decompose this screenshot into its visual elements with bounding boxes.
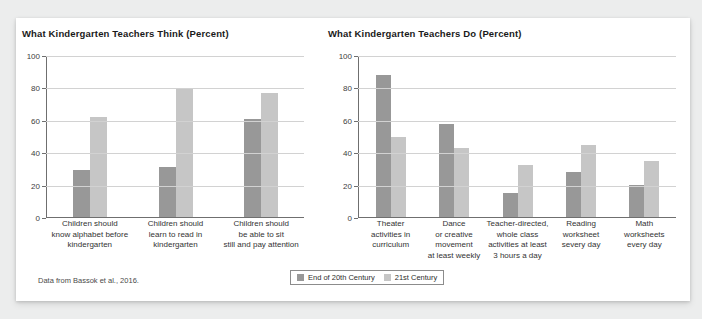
bar-group <box>359 56 422 217</box>
bar <box>518 165 533 217</box>
category-label-line: Children should <box>219 219 303 230</box>
bar <box>159 167 176 217</box>
gridline <box>358 56 676 57</box>
category-label-line: worksheets <box>614 230 675 241</box>
y-tick-label: 80 <box>343 84 352 93</box>
category-labels-do: Theateractivities incurriculumDanceor cr… <box>359 219 676 261</box>
category-label-line: Children should <box>48 219 132 230</box>
plot-area-do: 020406080100 <box>358 56 676 218</box>
category-label: Teacher-directed,whole classactivities a… <box>486 219 550 261</box>
y-tick-mark <box>354 153 358 154</box>
gridline <box>46 88 304 89</box>
y-tick-mark <box>354 121 358 122</box>
chart-title-think: What Kindergarten Teachers Think (Percen… <box>22 28 229 39</box>
category-label-line: Teacher-directed, <box>487 219 549 230</box>
legend-swatch-icon <box>297 274 304 281</box>
bar <box>503 193 518 217</box>
category-label-line: still and pay attention <box>219 240 303 251</box>
bar-group <box>486 56 549 217</box>
category-label-line: movement <box>423 240 484 251</box>
source-note: Data from Bassok et al., 2016. <box>38 276 139 285</box>
bar <box>73 170 90 217</box>
category-label-line: activities in <box>360 230 421 241</box>
chart-title-do: What Kindergarten Teachers Do (Percent) <box>328 28 522 39</box>
bar-group <box>549 56 612 217</box>
legend-item-label: End of 20th Century <box>308 273 375 282</box>
bar <box>581 145 596 217</box>
category-label-line: every day <box>614 240 675 251</box>
category-label-line: Math <box>614 219 675 230</box>
y-tick-label: 100 <box>27 52 40 61</box>
category-labels-think: Children shouldknow alphabet beforekinde… <box>47 219 304 251</box>
category-label-line: curriculum <box>360 240 421 251</box>
y-tick-mark <box>42 186 46 187</box>
y-tick-label: 0 <box>36 214 40 223</box>
y-tick-mark <box>354 88 358 89</box>
bar <box>90 117 107 217</box>
category-label: Theateractivities incurriculum <box>359 219 422 261</box>
category-label-line: 3 hours a day <box>487 251 549 262</box>
category-label: Children shouldknow alphabet beforekinde… <box>47 219 133 251</box>
y-tick-label: 40 <box>31 149 40 158</box>
category-label-line: or creative <box>423 230 484 241</box>
category-label-line: learn to read in <box>134 230 218 241</box>
y-tick-mark <box>42 88 46 89</box>
gridline <box>358 88 676 89</box>
y-tick-mark <box>42 56 46 57</box>
y-tick-mark <box>42 121 46 122</box>
legend-swatch-icon <box>384 274 391 281</box>
category-label: Children shouldlearn to read inkindergar… <box>133 219 219 251</box>
y-tick-mark <box>42 153 46 154</box>
bar <box>261 93 278 217</box>
y-tick-mark <box>354 56 358 57</box>
category-label-line: worksheet <box>550 230 611 241</box>
gridline <box>358 153 676 154</box>
legend-item: 21st Century <box>384 273 438 282</box>
y-tick-mark <box>354 218 358 219</box>
category-label: Children shouldbe able to sitstill and p… <box>218 219 304 251</box>
plot-area-think: 020406080100 <box>46 56 304 218</box>
category-label-line: activities at least <box>487 240 549 251</box>
category-label: Mathworksheetsevery day <box>613 219 676 261</box>
category-label-line: Children should <box>134 219 218 230</box>
bar-group <box>422 56 485 217</box>
x-axis-do <box>358 217 676 218</box>
chart-panel-do: What Kindergarten Teachers Do (Percent) … <box>314 18 690 268</box>
bar <box>454 148 469 217</box>
y-tick-label: 20 <box>343 181 352 190</box>
y-tick-mark <box>354 186 358 187</box>
figure-card: What Kindergarten Teachers Think (Percen… <box>16 18 690 301</box>
category-label-line: Theater <box>360 219 421 230</box>
bar-group <box>133 56 219 217</box>
gridline <box>358 121 676 122</box>
chart-legend: End of 20th Century21st Century <box>290 270 444 285</box>
category-label-line: Dance <box>423 219 484 230</box>
y-tick-label: 0 <box>348 214 352 223</box>
category-label-line: Reading <box>550 219 611 230</box>
y-tick-label: 40 <box>343 149 352 158</box>
bar <box>376 75 391 217</box>
y-tick-label: 60 <box>343 116 352 125</box>
figure-root: What Kindergarten Teachers Think (Percen… <box>0 0 702 319</box>
chart-panel-think: What Kindergarten Teachers Think (Percen… <box>16 18 316 268</box>
bar <box>644 161 659 217</box>
bar <box>439 124 454 217</box>
gridline <box>46 153 304 154</box>
charts-container: What Kindergarten Teachers Think (Percen… <box>16 18 690 268</box>
bar-group <box>47 56 133 217</box>
gridline <box>46 56 304 57</box>
y-tick-mark <box>42 218 46 219</box>
bar <box>629 185 644 217</box>
gridline <box>46 186 304 187</box>
bar-groups-do <box>359 56 676 217</box>
legend-item-label: 21st Century <box>395 273 438 282</box>
category-label-line: at least weekly <box>423 251 484 262</box>
y-tick-label: 60 <box>31 116 40 125</box>
bar <box>566 172 581 217</box>
gridline <box>358 186 676 187</box>
y-tick-label: 100 <box>339 52 352 61</box>
bar-group <box>613 56 676 217</box>
legend-item: End of 20th Century <box>297 273 375 282</box>
category-label: Readingworksheetsevery day <box>549 219 612 261</box>
category-label-line: kindergarten <box>134 240 218 251</box>
